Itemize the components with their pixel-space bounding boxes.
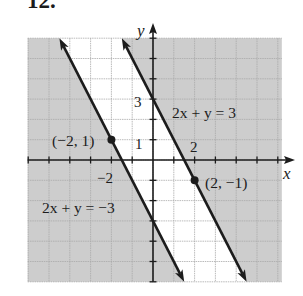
line-label-lower: 2x + y = −3: [42, 199, 115, 216]
x-tick-label-2: 2: [190, 139, 198, 155]
x-axis-label: x: [282, 164, 291, 183]
point-marker-1: [191, 176, 199, 184]
x-tick-label-neg2: −2: [97, 170, 113, 186]
line-label-upper: 2x + y = 3: [172, 104, 236, 121]
point-label-2-neg1: (2, −1): [205, 174, 247, 192]
point-label-neg2-1: (−2, 1): [52, 132, 94, 150]
graph: 12. y x 3 1 −2 2 2x + y = 3 2x + y = −3 …: [0, 0, 303, 296]
point-marker-0: [107, 136, 115, 144]
y-tick-label-1: 1: [135, 136, 143, 152]
y-tick-label-3: 3: [134, 94, 142, 110]
y-axis-label: y: [135, 21, 145, 40]
problem-number: 12.: [27, 0, 56, 13]
